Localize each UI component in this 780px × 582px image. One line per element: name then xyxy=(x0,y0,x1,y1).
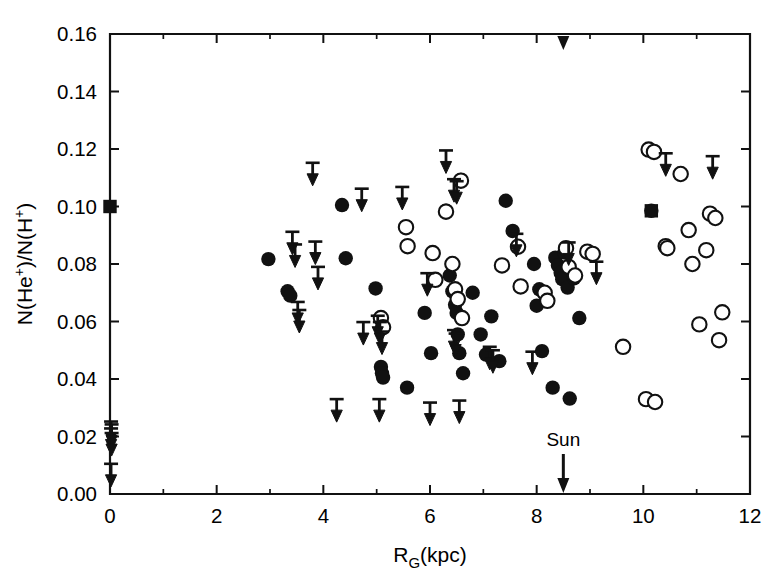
upper-limit-arrow xyxy=(308,242,322,265)
data-point-open-circle xyxy=(455,311,469,325)
sun-label: Sun xyxy=(546,429,580,450)
data-point-filled-circle xyxy=(484,309,498,323)
data-point-filled-circle xyxy=(376,370,390,384)
y-tick-label: 0.14 xyxy=(57,80,97,103)
x-tick-label: 6 xyxy=(424,504,435,527)
upper-limit-arrow xyxy=(395,187,409,210)
data-point-open-circle xyxy=(495,258,509,272)
x-tick-label: 10 xyxy=(632,504,655,527)
data-point-filled-circle xyxy=(261,252,275,266)
data-point-filled-circle xyxy=(473,327,487,341)
y-tick-label: 0.08 xyxy=(57,252,97,275)
data-point-open-circle xyxy=(673,167,687,181)
data-point-open-circle xyxy=(647,145,661,159)
data-point-open-circle xyxy=(648,395,662,409)
data-point-open-circle xyxy=(708,211,722,225)
data-point-open-circle xyxy=(660,241,674,255)
data-point-filled-circle xyxy=(400,380,414,394)
upper-limit-arrow xyxy=(104,464,118,487)
data-point-open-circle xyxy=(568,268,582,282)
x-tick-label: 8 xyxy=(531,504,542,527)
data-point-open-circle xyxy=(692,317,706,331)
data-point-open-circle xyxy=(699,243,713,257)
data-point-open-circle xyxy=(513,279,527,293)
data-point-open-circle xyxy=(445,257,459,271)
data-point-open-circle xyxy=(451,292,465,306)
upper-limit-arrow xyxy=(356,322,370,345)
upper-limit-arrow xyxy=(659,153,673,176)
data-point-filled-circle xyxy=(335,198,349,212)
x-tick-label: 0 xyxy=(104,504,115,527)
figure-root: 0246810120.000.020.040.060.080.100.120.1… xyxy=(0,0,780,582)
data-point-open-circle xyxy=(439,204,453,218)
data-point-open-circle xyxy=(715,305,729,319)
upper-limit-arrow xyxy=(706,156,720,179)
x-tick-label: 2 xyxy=(211,504,222,527)
data-point-filled-circle xyxy=(527,257,541,271)
data-point-filled-circle xyxy=(545,380,559,394)
sun-arrow-head xyxy=(557,478,569,493)
data-point-open-circle xyxy=(585,247,599,261)
data-point-filled-circle xyxy=(339,251,353,265)
data-point-filled-circle xyxy=(499,194,513,208)
data-point-open-circle xyxy=(616,340,630,354)
data-point-open-circle xyxy=(399,220,413,234)
data-point-filled-square xyxy=(103,200,116,213)
data-point-open-circle xyxy=(685,257,699,271)
data-point-filled-circle xyxy=(563,391,577,405)
y-axis-title: N(He+)/N(H+) xyxy=(11,203,36,326)
data-point-filled-circle xyxy=(465,286,479,300)
data-point-filled-circle xyxy=(424,346,438,360)
data-point-filled-circle xyxy=(368,281,382,295)
y-tick-label: 0.00 xyxy=(57,482,97,505)
data-point-open-circle xyxy=(681,223,695,237)
upper-limit-arrow xyxy=(589,262,603,285)
upper-limit-arrow xyxy=(439,150,453,173)
y-tick-label: 0.06 xyxy=(57,310,97,333)
upper-limit-arrow xyxy=(423,403,437,426)
upper-limit-arrow xyxy=(372,399,386,422)
upper-limit-arrow xyxy=(311,267,325,290)
upper-limit-arrow xyxy=(452,401,466,424)
y-tick-label: 0.10 xyxy=(57,195,97,218)
data-point-filled-square xyxy=(645,204,658,217)
data-point-filled-circle xyxy=(572,311,586,325)
y-tick-label: 0.12 xyxy=(57,137,97,160)
x-tick-label: 4 xyxy=(318,504,329,527)
upper-limit-arrow xyxy=(306,163,320,186)
data-point-open-circle xyxy=(540,294,554,308)
upper-limit-arrow xyxy=(330,399,344,422)
data-point-filled-circle xyxy=(456,366,470,380)
scatter-plot: 0246810120.000.020.040.060.080.100.120.1… xyxy=(0,0,780,582)
y-tick-label: 0.16 xyxy=(57,22,97,45)
upper-limit-arrow xyxy=(355,189,369,212)
data-point-open-circle xyxy=(400,239,414,253)
data-point-filled-circle xyxy=(417,306,431,320)
x-tick-label: 12 xyxy=(739,504,762,527)
sun-top-marker xyxy=(557,36,569,50)
y-tick-label: 0.02 xyxy=(57,425,97,448)
x-axis-title: RG(kpc) xyxy=(393,543,467,571)
data-point-open-circle xyxy=(712,333,726,347)
y-tick-label: 0.04 xyxy=(57,367,97,390)
data-point-open-circle xyxy=(425,246,439,260)
